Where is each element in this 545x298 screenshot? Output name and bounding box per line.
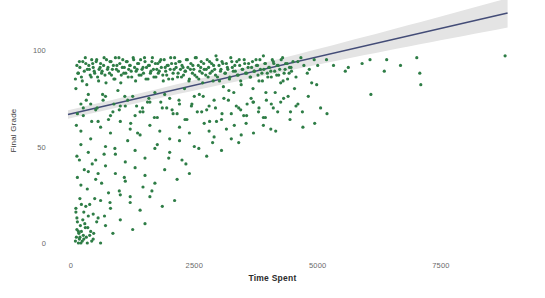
data-point — [125, 60, 128, 63]
data-point — [152, 68, 155, 71]
data-point — [74, 77, 77, 80]
data-point — [95, 220, 98, 223]
data-point — [109, 207, 112, 210]
data-point — [103, 56, 106, 59]
data-point — [75, 155, 78, 158]
data-point — [294, 104, 297, 107]
data-point — [288, 118, 291, 121]
data-point — [130, 70, 133, 73]
data-point — [213, 135, 216, 138]
data-point — [239, 79, 242, 82]
data-point — [80, 203, 83, 206]
data-point — [189, 68, 192, 71]
data-point — [87, 214, 90, 217]
data-point — [124, 104, 127, 107]
data-point — [168, 97, 171, 100]
data-point — [78, 197, 81, 200]
data-point — [178, 102, 181, 105]
data-point — [418, 72, 421, 75]
data-point — [302, 64, 305, 67]
data-point — [129, 195, 132, 198]
data-point — [74, 207, 77, 210]
data-point — [266, 72, 269, 75]
data-point — [89, 230, 92, 233]
data-point — [136, 68, 139, 71]
data-point — [254, 58, 257, 61]
data-point — [156, 143, 159, 146]
data-point — [208, 130, 211, 133]
data-point — [115, 64, 118, 67]
data-point — [159, 101, 162, 104]
data-point — [260, 72, 263, 75]
data-point — [332, 64, 335, 67]
data-point — [124, 180, 127, 183]
data-point — [147, 64, 150, 67]
data-point — [230, 137, 233, 140]
data-point — [310, 81, 313, 84]
data-point — [265, 99, 268, 102]
x-tick-label: 0 — [46, 261, 96, 270]
data-point — [119, 193, 122, 196]
data-point — [227, 99, 230, 102]
y-tick-label: 50 — [18, 143, 46, 152]
data-point — [215, 120, 218, 123]
scatter-chart: 050100 0250050007500 Time Spent Final Gr… — [0, 0, 545, 298]
data-point — [361, 62, 364, 65]
data-point — [293, 87, 296, 90]
data-point — [171, 77, 174, 80]
data-point — [76, 176, 79, 179]
data-point — [132, 58, 135, 61]
data-point — [84, 56, 87, 59]
data-point — [203, 122, 206, 125]
data-point — [104, 224, 107, 227]
data-point — [261, 79, 264, 82]
data-point — [75, 64, 78, 67]
data-point — [504, 54, 507, 57]
data-point — [112, 64, 115, 67]
data-point — [205, 155, 208, 158]
data-point — [122, 72, 125, 75]
data-point — [178, 139, 181, 142]
data-point — [139, 209, 142, 212]
data-point — [205, 68, 208, 71]
data-point — [121, 66, 124, 69]
data-point — [148, 195, 151, 198]
data-point — [161, 205, 164, 208]
data-point — [249, 75, 252, 78]
data-point — [76, 112, 79, 115]
data-point — [205, 108, 208, 111]
data-point — [148, 124, 151, 127]
data-point — [227, 89, 230, 92]
x-tick-label: 7500 — [416, 261, 466, 270]
data-point — [264, 62, 267, 65]
data-point — [233, 124, 236, 127]
data-point — [163, 93, 166, 96]
data-point — [74, 240, 77, 243]
data-point — [141, 66, 144, 69]
data-points — [74, 54, 507, 244]
data-point — [153, 116, 156, 119]
data-point — [238, 58, 241, 61]
data-point — [151, 56, 154, 59]
data-point — [90, 75, 93, 78]
data-point — [123, 176, 126, 179]
data-point — [167, 64, 170, 67]
data-point — [197, 147, 200, 150]
data-point — [82, 106, 85, 109]
data-point — [272, 106, 275, 109]
data-point — [87, 93, 90, 96]
x-axis-title: Time Spent — [0, 273, 545, 283]
data-point — [148, 101, 151, 104]
data-point — [135, 104, 138, 107]
data-point — [81, 79, 84, 82]
data-point — [187, 79, 190, 82]
data-point — [134, 79, 137, 82]
data-point — [188, 131, 191, 134]
data-point — [230, 112, 233, 115]
data-point — [220, 118, 223, 121]
data-point — [273, 70, 276, 73]
data-point — [344, 70, 347, 73]
data-point — [232, 70, 235, 73]
data-point — [76, 220, 79, 223]
data-point — [192, 68, 195, 71]
